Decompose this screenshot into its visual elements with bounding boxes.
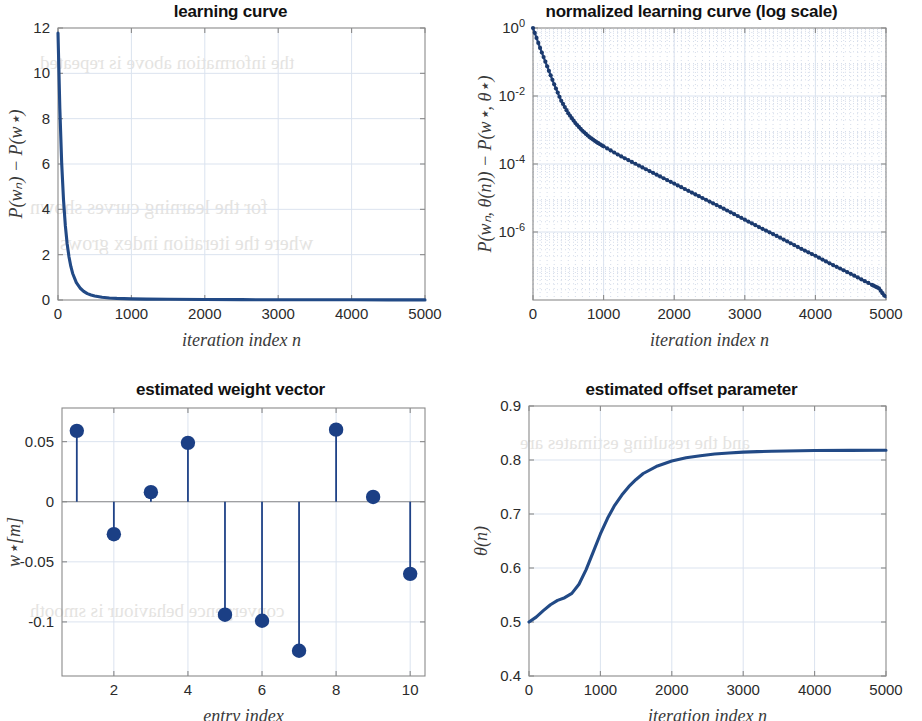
stem-marker (70, 424, 84, 438)
stem-marker (181, 436, 195, 450)
svg-text:1000: 1000 (584, 681, 617, 698)
svg-text:0.8: 0.8 (500, 451, 521, 468)
panel-estimated-weight-vector: estimated weight vector 2468100.050-0.05… (0, 360, 461, 721)
stem-marker (292, 644, 306, 658)
svg-text:P(wₙ) − P(w⋆): P(wₙ) − P(w⋆) (6, 109, 27, 219)
svg-text:0.5: 0.5 (500, 613, 521, 630)
panel-learning-curve: learning curve 0100020003000400050000246… (0, 0, 461, 360)
svg-text:5000: 5000 (869, 305, 902, 322)
svg-text:6: 6 (42, 155, 50, 172)
svg-text:2000: 2000 (188, 305, 221, 322)
panel-estimated-offset-parameter: estimated offset parameter 0100020003000… (461, 360, 922, 721)
svg-text:2000: 2000 (658, 305, 691, 322)
series-offset-estimate (529, 450, 886, 622)
svg-text:4: 4 (184, 681, 192, 698)
svg-text:0: 0 (54, 305, 62, 322)
svg-text:0.6: 0.6 (500, 559, 521, 576)
chart-estimated-offset-parameter: 0100020003000400050000.40.50.60.70.80.9i… (461, 360, 922, 721)
svg-text:4000: 4000 (335, 305, 368, 322)
svg-text:0: 0 (529, 305, 537, 322)
svg-text:3000: 3000 (727, 681, 760, 698)
svg-text:w⋆[m]: w⋆[m] (4, 517, 24, 567)
svg-text:6: 6 (258, 681, 266, 698)
stem-marker (144, 485, 158, 499)
stem-marker (107, 527, 121, 541)
svg-text:iteration index n: iteration index n (648, 706, 767, 721)
svg-text:1000: 1000 (587, 305, 620, 322)
svg-text:0.9: 0.9 (500, 397, 521, 414)
svg-text:10-6: 10-6 (499, 221, 525, 240)
panel-normalized-learning-curve: normalized learning curve (log scale) 01… (461, 0, 922, 360)
svg-text:0.4: 0.4 (500, 667, 521, 684)
svg-text:-0.1: -0.1 (28, 613, 54, 630)
svg-text:5000: 5000 (869, 681, 902, 698)
svg-text:10: 10 (33, 64, 50, 81)
svg-text:2: 2 (110, 681, 118, 698)
svg-text:4000: 4000 (798, 681, 831, 698)
svg-text:5000: 5000 (408, 305, 441, 322)
svg-text:-0.05: -0.05 (20, 553, 54, 570)
svg-text:0: 0 (46, 493, 54, 510)
svg-text:entry index: entry index (203, 706, 283, 721)
chart-learning-curve: 010002000300040005000024681012iteration … (0, 0, 461, 360)
svg-text:0: 0 (42, 291, 50, 308)
svg-text:100: 100 (502, 17, 525, 36)
svg-text:4000: 4000 (799, 305, 832, 322)
figure-grid: learning curve 0100020003000400050000246… (0, 0, 922, 721)
svg-text:iteration index n: iteration index n (182, 330, 301, 350)
svg-text:0.05: 0.05 (25, 433, 54, 450)
svg-text:3000: 3000 (262, 305, 295, 322)
chart-estimated-weight-vector: 2468100.050-0.05-0.1entry indexw⋆[m] (0, 360, 461, 721)
stem-marker (255, 614, 269, 628)
svg-text:θ(n): θ(n) (471, 526, 492, 556)
svg-text:10-2: 10-2 (499, 85, 525, 104)
svg-text:8: 8 (332, 681, 340, 698)
svg-text:P(wₙ, θ(n)) − P(w⋆, θ⋆): P(wₙ, θ(n)) − P(w⋆, θ⋆) (475, 76, 496, 254)
svg-text:0.7: 0.7 (500, 505, 521, 522)
svg-text:12: 12 (33, 19, 50, 36)
svg-text:1000: 1000 (115, 305, 148, 322)
svg-text:4: 4 (42, 200, 50, 217)
svg-text:8: 8 (42, 110, 50, 127)
stem-marker (218, 608, 232, 622)
stem-marker (329, 422, 343, 436)
svg-text:0: 0 (525, 681, 533, 698)
chart-normalized-learning-curve: 01000200030004000500010010-210-410-6iter… (461, 0, 922, 360)
svg-text:10: 10 (402, 681, 419, 698)
svg-text:2000: 2000 (655, 681, 688, 698)
svg-text:2: 2 (42, 246, 50, 263)
stem-marker (403, 567, 417, 581)
svg-text:3000: 3000 (728, 305, 761, 322)
svg-text:10-4: 10-4 (499, 153, 525, 172)
stem-marker (366, 490, 380, 504)
svg-text:iteration index n: iteration index n (650, 330, 769, 350)
